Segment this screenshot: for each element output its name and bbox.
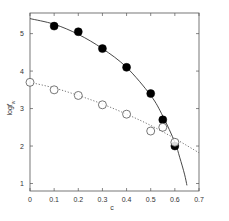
y-tick-label: 1 (20, 180, 24, 187)
open-circle-marker (123, 110, 131, 118)
open-circle-marker (159, 123, 167, 131)
filled-circle-marker (147, 90, 155, 98)
filled-circle-marker (159, 116, 167, 124)
y-tick-label: 5 (20, 30, 24, 37)
x-tick-label: 0 (28, 196, 32, 203)
filled-circle-marker (50, 22, 58, 30)
x-tick-label: 0.7 (194, 196, 204, 203)
fit-curves (30, 19, 199, 186)
open-circle-marker (74, 91, 82, 99)
x-tick-label: 0.4 (122, 196, 132, 203)
y-tick-label: 3 (20, 105, 24, 112)
open-circle-marker (98, 101, 106, 109)
open-circle-marker (147, 127, 155, 135)
filled-circle-marker (74, 28, 82, 36)
filled-circle-marker (123, 63, 131, 71)
x-tick-label: 0.3 (98, 196, 108, 203)
x-tick-label: 0.6 (170, 196, 180, 203)
tick-labels: 00.10.20.30.40.50.60.712345 (20, 30, 204, 203)
x-tick-label: 0.1 (49, 196, 59, 203)
data-points (26, 22, 179, 150)
plot-frame (30, 13, 199, 191)
x-tick-label: 0.5 (146, 196, 156, 203)
x-tick-label: 0.2 (73, 196, 83, 203)
chart: 00.10.20.30.40.50.60.712345 c logfw (0, 0, 229, 221)
open-circle-marker (50, 86, 58, 94)
y-tick-label: 4 (20, 68, 24, 75)
y-tick-label: 2 (20, 143, 24, 150)
plot-border (30, 13, 199, 191)
y-axis-label: logfw (6, 100, 16, 115)
filled-circle-marker (98, 45, 106, 53)
open-circle-marker (171, 138, 179, 146)
solid-fit-curve (30, 19, 187, 186)
open-circle-marker (26, 78, 34, 86)
axis-ticks (30, 13, 199, 191)
x-axis-label: c (110, 204, 114, 211)
